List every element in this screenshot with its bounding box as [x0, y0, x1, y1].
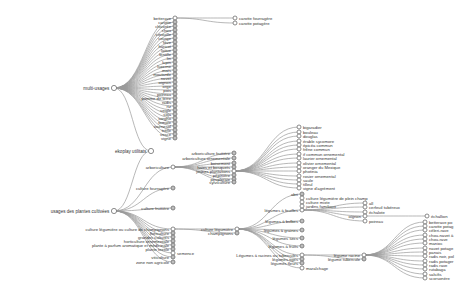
node-toggle-icon[interactable]: [173, 112, 177, 116]
node-toggle-icon[interactable]: [171, 243, 175, 247]
tree-node[interactable]: échalote: [363, 210, 386, 215]
node-toggle-icon[interactable]: [173, 80, 177, 84]
node-toggle-icon[interactable]: [173, 92, 177, 96]
node-toggle-icon[interactable]: [362, 257, 366, 261]
node-toggle-icon[interactable]: [173, 108, 177, 112]
tree-node[interactable]: poireau: [363, 219, 384, 224]
node-toggle-icon[interactable]: [300, 266, 304, 270]
node-toggle-icon[interactable]: [173, 40, 177, 44]
tree-node[interactable]: ekoplay utilitats: [115, 148, 154, 153]
node-toggle-icon[interactable]: [148, 148, 153, 153]
node-toggle-icon[interactable]: [423, 241, 427, 245]
node-toggle-icon[interactable]: [423, 259, 427, 263]
node-toggle-icon[interactable]: [363, 214, 367, 218]
node-toggle-icon[interactable]: [173, 44, 177, 48]
node-toggle-icon[interactable]: [235, 231, 239, 235]
node-toggle-icon[interactable]: [171, 206, 175, 210]
node-toggle-icon[interactable]: [173, 136, 177, 140]
node-toggle-icon[interactable]: [300, 253, 304, 257]
tree-node[interactable]: usages des plantes cultivées: [51, 208, 117, 213]
node-toggle-icon[interactable]: [232, 173, 236, 177]
node-toggle-icon[interactable]: [173, 68, 177, 72]
tree-node[interactable]: échallion: [425, 214, 448, 219]
node-toggle-icon[interactable]: [423, 272, 427, 276]
node-toggle-icon[interactable]: [423, 267, 427, 271]
node-toggle-icon[interactable]: [423, 246, 427, 250]
tree-node[interactable]: arboriculture: [146, 165, 175, 170]
node-toggle-icon[interactable]: [297, 186, 301, 190]
tree-node[interactable]: vigne d'agrément: [297, 186, 336, 191]
node-toggle-icon[interactable]: [173, 132, 177, 136]
node-toggle-icon[interactable]: [171, 247, 175, 251]
node-toggle-icon[interactable]: [297, 165, 301, 169]
tree-node[interactable]: semence: [171, 251, 195, 256]
node-toggle-icon[interactable]: [232, 161, 236, 165]
node-toggle-icon[interactable]: [173, 128, 177, 132]
tree-node[interactable]: maraîchage: [300, 266, 329, 271]
node-toggle-icon[interactable]: [363, 201, 367, 205]
node-toggle-icon[interactable]: [423, 263, 427, 267]
node-toggle-icon[interactable]: [300, 228, 304, 232]
node-toggle-icon[interactable]: [173, 88, 177, 92]
node-toggle-icon[interactable]: [297, 161, 301, 165]
node-toggle-icon[interactable]: [173, 28, 177, 32]
node-toggle-icon[interactable]: [297, 156, 301, 160]
node-toggle-icon[interactable]: [235, 227, 239, 231]
node-toggle-icon[interactable]: [111, 85, 116, 90]
node-toggle-icon[interactable]: [173, 100, 177, 104]
tree-node[interactable]: vigne: [161, 136, 177, 141]
node-toggle-icon[interactable]: [171, 227, 175, 231]
node-toggle-icon[interactable]: [173, 116, 177, 120]
node-toggle-icon[interactable]: [363, 210, 367, 214]
node-toggle-icon[interactable]: [300, 196, 304, 200]
node-toggle-icon[interactable]: [300, 192, 304, 196]
node-toggle-icon[interactable]: [232, 180, 236, 184]
node-toggle-icon[interactable]: [423, 250, 427, 254]
node-toggle-icon[interactable]: [300, 200, 304, 204]
node-toggle-icon[interactable]: [232, 151, 236, 155]
node-toggle-icon[interactable]: [423, 276, 427, 280]
node-toggle-icon[interactable]: [423, 233, 427, 237]
node-toggle-icon[interactable]: [171, 260, 175, 264]
node-toggle-icon[interactable]: [233, 21, 237, 25]
node-toggle-icon[interactable]: [173, 52, 177, 56]
node-toggle-icon[interactable]: [300, 204, 304, 208]
node-toggle-icon[interactable]: [173, 20, 177, 24]
node-toggle-icon[interactable]: [173, 56, 177, 60]
node-toggle-icon[interactable]: [173, 36, 177, 40]
node-toggle-icon[interactable]: [173, 120, 177, 124]
node-toggle-icon[interactable]: [171, 186, 175, 190]
node-toggle-icon[interactable]: [173, 104, 177, 108]
node-toggle-icon[interactable]: [297, 147, 301, 151]
node-toggle-icon[interactable]: [173, 76, 177, 80]
node-toggle-icon[interactable]: [297, 125, 301, 129]
node-toggle-icon[interactable]: [173, 72, 177, 76]
node-toggle-icon[interactable]: [300, 244, 304, 248]
tree-node[interactable]: multi-usages: [83, 85, 116, 90]
node-toggle-icon[interactable]: [171, 231, 175, 235]
node-toggle-icon[interactable]: [423, 254, 427, 258]
node-toggle-icon[interactable]: [300, 208, 304, 212]
node-toggle-icon[interactable]: [297, 130, 301, 134]
node-toggle-icon[interactable]: [297, 178, 301, 182]
tree-node[interactable]: carotte potagère: [233, 21, 270, 26]
node-toggle-icon[interactable]: [173, 124, 177, 128]
node-toggle-icon[interactable]: [362, 253, 366, 257]
node-toggle-icon[interactable]: [297, 143, 301, 147]
node-toggle-icon[interactable]: [232, 165, 236, 169]
node-toggle-icon[interactable]: [300, 257, 304, 261]
node-toggle-icon[interactable]: [173, 60, 177, 64]
node-toggle-icon[interactable]: [300, 236, 304, 240]
node-toggle-icon[interactable]: [423, 228, 427, 232]
tree-node[interactable]: oignon: [348, 214, 367, 219]
node-toggle-icon[interactable]: [363, 219, 367, 223]
node-toggle-icon[interactable]: [171, 165, 175, 169]
node-toggle-icon[interactable]: [363, 205, 367, 209]
node-toggle-icon[interactable]: [297, 152, 301, 156]
tree-node[interactable]: jardins familiaux: [300, 204, 337, 209]
node-toggle-icon[interactable]: [297, 174, 301, 178]
node-toggle-icon[interactable]: [173, 16, 177, 20]
node-toggle-icon[interactable]: [171, 251, 175, 255]
node-toggle-icon[interactable]: [297, 139, 301, 143]
node-toggle-icon[interactable]: [297, 182, 301, 186]
